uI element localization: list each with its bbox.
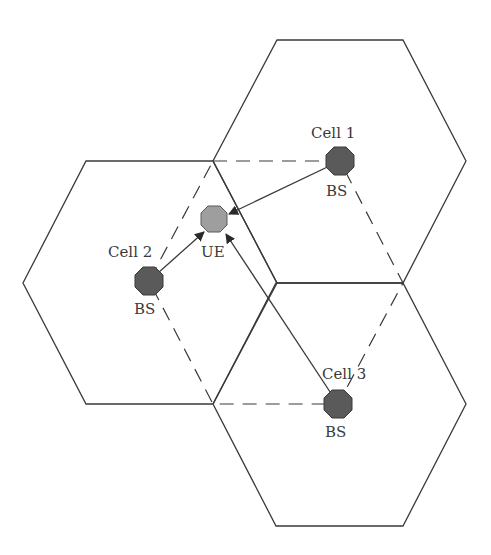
link-bs1-to-ue bbox=[229, 161, 340, 214]
cell-3-label: Cell 3 bbox=[322, 365, 366, 383]
bs-1-icon bbox=[326, 147, 354, 175]
ue-label: UE bbox=[201, 243, 225, 261]
bs-3-icon bbox=[324, 390, 352, 418]
ue-icon bbox=[201, 206, 227, 232]
cell-1-label: Cell 1 bbox=[311, 124, 355, 142]
bs-1-label: BS bbox=[326, 182, 347, 200]
bs-3-label: BS bbox=[325, 423, 346, 441]
bs-2-icon bbox=[135, 267, 163, 295]
cellular-diagram: Cell 1 BS Cell 2 BS Cell 3 BS UE bbox=[0, 0, 491, 555]
bs-2-label: BS bbox=[134, 300, 155, 318]
cell-2-label: Cell 2 bbox=[108, 243, 152, 261]
